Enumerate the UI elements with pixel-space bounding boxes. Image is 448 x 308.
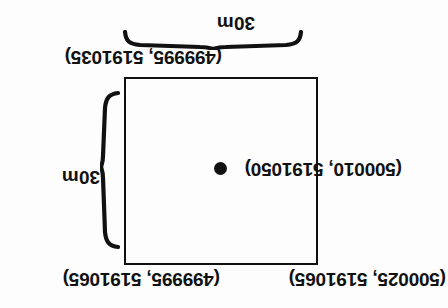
coord-label-lower-right: (500025, 5191065) (289, 268, 446, 290)
dimension-label-vertical: 30m (62, 166, 100, 188)
curly-brace-horizontal-icon (122, 30, 304, 50)
diagram-canvas: (500025, 5191065) (499995, 5191065) (500… (0, 0, 448, 308)
center-point-dot-icon (214, 162, 227, 175)
coord-label-lower-left: (499995, 5191065) (63, 268, 220, 290)
grid-cell-figure: (500025, 5191065) (499995, 5191065) (500… (0, 0, 448, 308)
coord-label-center: (500010, 5191050) (245, 158, 402, 180)
curly-brace-vertical-icon (100, 90, 122, 250)
